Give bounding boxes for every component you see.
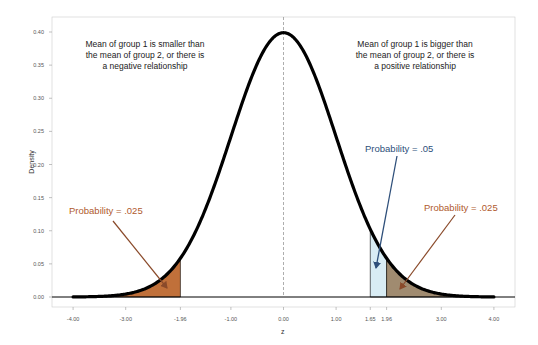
y-tick-label: 0.25 [14, 128, 44, 134]
y-tick-label: 0.35 [14, 62, 44, 68]
y-tick-label: 0.15 [14, 195, 44, 201]
x-tick-label: -1.96 [174, 316, 187, 322]
prob-label-left: Probability = .025 [69, 205, 143, 216]
y-tick-label: 0.05 [14, 261, 44, 267]
y-axis-ticks [49, 32, 52, 297]
x-axis-label: z [281, 328, 285, 335]
prob-label-right: Probability = .025 [424, 202, 498, 213]
y-tick-label: 0.30 [14, 95, 44, 101]
arrow-mid-prob [376, 156, 397, 268]
arrow-left-prob [113, 221, 167, 288]
critical-band-region [370, 229, 386, 297]
note-negative-relationship: Mean of group 1 is smaller than the mean… [70, 39, 220, 72]
x-tick-label: -1.00 [225, 316, 238, 322]
arrow-right-prob [400, 215, 455, 289]
x-tick-label: 3.00 [436, 316, 447, 322]
y-axis-label: Density [28, 150, 35, 173]
y-tick-label: 0.40 [14, 29, 44, 35]
x-tick-label: 1.96 [381, 316, 392, 322]
x-tick-label: -3.00 [119, 316, 132, 322]
x-tick-label: 0.00 [278, 316, 289, 322]
prob-label-mid: Probability = .05 [365, 143, 433, 154]
x-tick-label: 1.65 [365, 316, 376, 322]
x-tick-label: 1.00 [331, 316, 342, 322]
y-tick-label: 0.10 [14, 228, 44, 234]
x-axis-ticks [73, 307, 494, 310]
note-positive-relationship: Mean of group 1 is bigger than the mean … [340, 39, 490, 72]
y-tick-label: 0.00 [14, 294, 44, 300]
x-tick-label: -4.00 [67, 316, 80, 322]
x-tick-label: 4.00 [489, 316, 500, 322]
